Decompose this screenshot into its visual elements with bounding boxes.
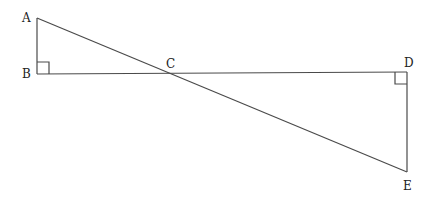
geometry-diagram: A B C D E — [0, 0, 431, 199]
right-angle-marker-d — [395, 72, 407, 84]
label-b: B — [22, 67, 31, 81]
label-a: A — [21, 11, 31, 25]
right-angle-marker-b — [37, 62, 49, 74]
label-d: D — [404, 56, 414, 70]
segment-bd — [37, 72, 407, 74]
label-c: C — [166, 57, 175, 71]
label-e: E — [403, 179, 412, 193]
segment-ae — [37, 18, 407, 172]
